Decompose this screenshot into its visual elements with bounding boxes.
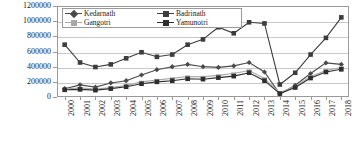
data-point <box>108 80 113 85</box>
data-point <box>170 78 175 83</box>
x-tick-label: 2005 <box>145 100 153 116</box>
data-point <box>216 65 221 70</box>
x-tick-mark <box>218 97 219 100</box>
x-tick-label: 2014 <box>283 100 291 116</box>
y-tick-label: 200000 <box>27 78 51 86</box>
x-tick-mark <box>326 97 327 100</box>
data-point <box>170 52 175 57</box>
x-tick-label: 2006 <box>160 100 168 116</box>
data-point <box>139 81 144 86</box>
x-tick-label: 2018 <box>345 100 353 116</box>
x-tick-label: 2008 <box>191 100 199 116</box>
x-tick-label: 2004 <box>130 100 138 116</box>
data-point <box>262 78 267 83</box>
y-tick-label: 600000 <box>27 48 51 56</box>
x-tick-mark <box>80 97 81 100</box>
data-point <box>77 82 82 87</box>
data-point <box>308 52 313 57</box>
data-point <box>308 76 313 81</box>
data-point <box>231 63 236 68</box>
x-tick-label: 2013 <box>268 100 276 116</box>
legend-marker-yamunotri <box>157 19 174 27</box>
data-point <box>185 42 190 47</box>
series-yamunotri <box>62 67 343 96</box>
legend-marker-badrinath <box>157 10 174 18</box>
legend-marker-kedarnath <box>65 10 82 18</box>
data-point <box>155 55 160 60</box>
legend-label-gangotri: Gangotri <box>84 19 111 27</box>
x-tick-label: 2011 <box>237 100 245 116</box>
data-point <box>139 72 144 77</box>
x-tick-mark <box>142 97 143 100</box>
data-point <box>124 56 129 61</box>
data-point <box>293 70 298 75</box>
legend-item-gangotri: Gangotri <box>65 18 157 27</box>
x-axis: 2000200120022003200420052006200720082009… <box>57 97 349 143</box>
data-point <box>62 42 67 47</box>
data-point <box>231 31 236 36</box>
legend-label-badrinath: Badrinath <box>176 10 206 18</box>
x-tick-mark <box>203 97 204 100</box>
legend-label-kedarnath: Kedarnath <box>84 10 115 18</box>
x-tick-mark <box>126 97 127 100</box>
data-point <box>339 15 344 20</box>
data-point <box>93 88 98 93</box>
legend-key-marker <box>71 20 77 26</box>
x-tick-mark <box>188 97 189 100</box>
data-point <box>124 78 129 83</box>
data-point <box>62 87 67 92</box>
data-point <box>339 67 344 72</box>
y-tick-label: 400000 <box>27 63 51 71</box>
data-point <box>324 36 329 41</box>
x-tick-mark <box>95 97 96 100</box>
data-point <box>201 77 206 82</box>
x-tick-mark <box>234 97 235 100</box>
x-tick-label: 2009 <box>207 100 215 116</box>
x-tick-label: 2003 <box>114 100 122 116</box>
data-point <box>93 65 98 70</box>
data-point <box>154 67 159 72</box>
x-tick-mark <box>157 97 158 100</box>
data-point <box>324 70 329 75</box>
x-tick-label: 2012 <box>253 100 261 116</box>
data-point <box>278 82 283 87</box>
data-point <box>78 60 83 65</box>
x-tick-mark <box>172 97 173 100</box>
y-tick-label: 1200000 <box>23 2 51 10</box>
data-point <box>108 62 113 67</box>
legend-label-yamunotri: Yamunotri <box>176 19 208 27</box>
data-point <box>108 86 113 91</box>
data-point <box>155 80 160 85</box>
data-point <box>124 84 129 89</box>
x-tick-mark <box>249 97 250 100</box>
data-point <box>185 77 190 82</box>
x-tick-label: 2017 <box>329 100 337 116</box>
data-point <box>201 37 206 42</box>
data-point <box>278 91 283 96</box>
x-tick-label: 2000 <box>68 100 76 116</box>
data-point <box>262 21 267 26</box>
x-tick-label: 2001 <box>84 100 92 116</box>
x-tick-label: 2007 <box>176 100 184 116</box>
x-tick-label: 2016 <box>314 100 322 116</box>
data-point <box>293 85 298 90</box>
data-point <box>216 75 221 80</box>
x-tick-mark <box>264 97 265 100</box>
data-point <box>247 60 252 65</box>
legend-item-yamunotri: Yamunotri <box>157 18 245 27</box>
y-axis: 020000040000060000080000010000001200000 <box>0 0 57 103</box>
legend-key-marker <box>163 20 169 26</box>
x-tick-mark <box>65 97 66 100</box>
legend-item-kedarnath: Kedarnath <box>65 9 157 18</box>
data-point <box>139 50 144 55</box>
x-tick-mark <box>341 97 342 100</box>
x-tick-label: 2015 <box>299 100 307 116</box>
data-point <box>247 20 252 25</box>
data-point <box>185 62 190 67</box>
y-tick-label: 1000000 <box>23 17 51 25</box>
data-point <box>170 64 175 69</box>
data-point <box>200 64 205 69</box>
y-tick-label: 800000 <box>27 32 51 40</box>
chart-legend: Kedarnath Badrinath Gangotri Yamunotri <box>62 8 242 28</box>
legend-item-badrinath: Badrinath <box>157 9 245 18</box>
